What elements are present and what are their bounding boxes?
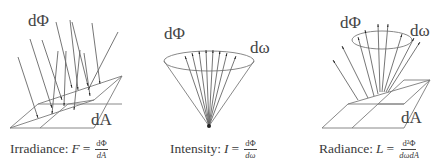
caption-equals: = [83, 141, 91, 157]
irradiance-caption: Irradiance: F = dΦ dA [10, 139, 108, 159]
radiance-flux-label: dΦ [340, 14, 361, 31]
radiance-area-label: dA [401, 109, 422, 126]
caption-equals: = [232, 141, 240, 157]
caption-equals: = [387, 141, 395, 157]
intensity-solid-angle-label: dω [250, 39, 270, 56]
point-source [207, 124, 211, 128]
intensity-flux-label: dΦ [164, 25, 185, 42]
caption-symbol: I [224, 141, 229, 157]
solid-angle-cap [164, 51, 254, 71]
irradiance-area-label: dA [91, 111, 112, 128]
fraction-denominator: dω [245, 150, 255, 160]
incoming-rays [18, 20, 118, 118]
caption-symbol: L [376, 141, 384, 157]
fraction-denominator: dωdA [399, 150, 419, 160]
fraction-numerator: dΦ [95, 139, 107, 150]
emitted-rays [185, 50, 236, 126]
caption-name: Irradiance: [10, 141, 68, 157]
caption-fraction: dΦ dA [95, 139, 107, 159]
caption-symbol: F [71, 141, 79, 157]
intensity-caption: Intensity: I = dΦ dω [170, 139, 257, 159]
intensity-panel [164, 50, 254, 128]
caption-fraction: d²Φ dωdA [399, 139, 419, 159]
radiance-caption: Radiance: L = d²Φ dωdA [319, 139, 419, 159]
caption-name: Intensity: [170, 141, 221, 157]
fraction-denominator: dA [97, 150, 106, 160]
fraction-numerator: dΦ [244, 139, 256, 150]
solid-angle-cap [352, 31, 412, 49]
fraction-numerator: d²Φ [401, 139, 416, 150]
irradiance-flux-label: dΦ [28, 12, 49, 29]
caption-fraction: dΦ dω [244, 139, 256, 159]
caption-name: Radiance: [319, 141, 373, 157]
radiance-solid-angle-label: dω [410, 22, 430, 39]
